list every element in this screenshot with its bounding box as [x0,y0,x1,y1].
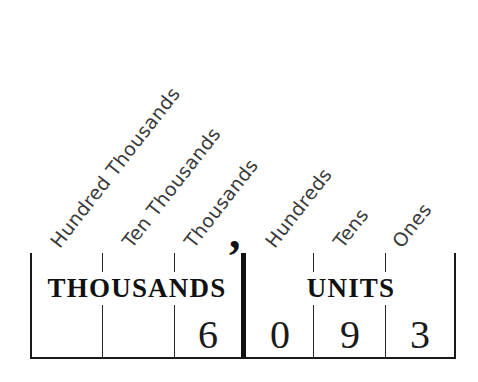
column-label-hundreds: Hundreds [262,165,335,251]
digit-cell-ten-thousands [102,311,174,359]
group-heading-units: UNITS [248,271,454,305]
column-label-hundred-thousands: Hundred Thousands [47,84,183,251]
place-value-chart: Hundred Thousands Ten Thousands Thousand… [0,0,478,382]
column-label-tens: Tens [330,205,372,251]
digit-cell-hundreds: 0 [246,311,314,359]
group-heading-thousands: THOUSANDS [34,271,240,305]
digit-cell-hundred-thousands [30,311,102,359]
thousands-separator-comma: , [229,210,241,256]
digit-cell-thousands: 6 [174,311,242,359]
column-label-ones: Ones [389,200,435,251]
chart-grid: THOUSANDS UNITS 6 0 9 3 [30,253,456,359]
digit-cell-ones: 3 [386,311,454,359]
digit-cell-tens: 9 [314,311,386,359]
grid-border-right [454,253,456,359]
